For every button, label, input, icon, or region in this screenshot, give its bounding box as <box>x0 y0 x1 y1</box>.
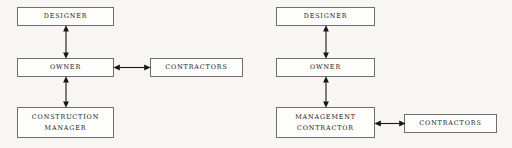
connector-owner-management-contractor <box>316 75 336 109</box>
connector-designer-owner-left <box>56 24 76 60</box>
node-construction-manager: Construction Manager <box>17 107 114 138</box>
connector-management-contractor-contractors <box>373 114 407 133</box>
diagram-construction-manager-structure: Designer Owner Contractors Construction … <box>0 0 256 148</box>
node-contractors-left: Contractors <box>150 58 243 77</box>
connector-owner-contractors-left <box>112 58 152 77</box>
connector-owner-construction-manager <box>56 75 76 109</box>
node-contractors-right: Contractors <box>404 114 497 133</box>
node-management-contractor: Management Contractor <box>276 107 375 138</box>
diagram-canvas: Designer Owner Contractors Construction … <box>0 0 512 148</box>
connector-designer-owner-right <box>316 24 336 60</box>
diagram-management-contractor-structure: Designer Owner Management Contractor Con… <box>256 0 512 148</box>
